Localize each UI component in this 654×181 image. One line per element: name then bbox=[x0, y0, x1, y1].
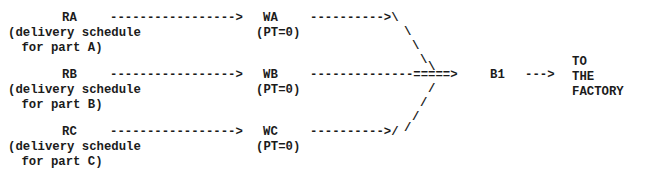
arrow-wa-to-merge: ---------->\ bbox=[310, 11, 399, 26]
source-desc-rc-line2: for part C) bbox=[14, 155, 103, 170]
source-label-ra: RA bbox=[62, 11, 77, 26]
arrow-ra-to-wa: -----------------> bbox=[110, 11, 243, 26]
destination-line-to: TO bbox=[572, 55, 587, 70]
merge-diagonal-lower-1: / bbox=[428, 82, 435, 97]
node-wc: WC bbox=[263, 125, 278, 140]
param-wb: (PT=0) bbox=[256, 83, 300, 98]
source-label-rc: RC bbox=[62, 125, 77, 140]
merge-diagonal-upper-1: \ bbox=[404, 25, 411, 40]
source-desc-rb-line1: (delivery schedule bbox=[8, 83, 141, 98]
arrow-wb-to-merge: --------------=====> bbox=[310, 68, 458, 83]
node-wa: WA bbox=[263, 11, 278, 26]
source-desc-ra-line2: for part A) bbox=[14, 41, 103, 56]
source-desc-ra-line1: (delivery schedule bbox=[8, 26, 141, 41]
destination-line-factory: FACTORY bbox=[572, 85, 624, 100]
merge-diagonal-lower-2: / bbox=[420, 96, 427, 111]
node-b1: B1 bbox=[490, 68, 505, 83]
param-wc: (PT=0) bbox=[256, 140, 300, 155]
merge-diagonal-upper-4: \ bbox=[428, 60, 435, 75]
source-desc-rc-line1: (delivery schedule bbox=[8, 140, 141, 155]
source-desc-rb-line2: for part B) bbox=[14, 98, 103, 113]
destination-line-the: THE bbox=[572, 70, 594, 85]
arrow-rc-to-wc: -----------------> bbox=[110, 125, 243, 140]
merge-diagonal-lower-3: / bbox=[412, 110, 419, 125]
merge-diagonal-upper-3: \ bbox=[420, 53, 427, 68]
param-wa: (PT=0) bbox=[256, 26, 300, 41]
ascii-flow-diagram: RA -----------------> WA ---------->\ (d… bbox=[0, 0, 654, 181]
merge-diagonal-lower-4: / bbox=[404, 121, 411, 136]
arrow-b1-to-factory: ---> bbox=[525, 68, 555, 83]
merge-diagonal-upper-2: \ bbox=[412, 39, 419, 54]
arrow-wc-to-merge: ---------->/ bbox=[310, 125, 399, 140]
arrow-rb-to-wb: -----------------> bbox=[110, 68, 243, 83]
node-wb: WB bbox=[263, 68, 278, 83]
source-label-rb: RB bbox=[62, 68, 77, 83]
